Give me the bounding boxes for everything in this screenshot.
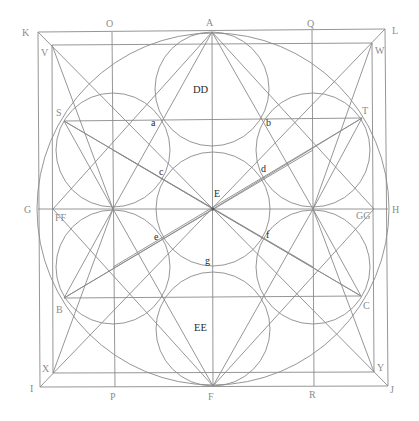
label-F: F <box>208 391 214 402</box>
label-A: A <box>206 17 214 28</box>
label-b: b <box>266 117 271 128</box>
label-d: d <box>261 163 266 174</box>
line-X-mid-left <box>53 209 113 373</box>
label-J: J <box>390 384 394 395</box>
label-DD: DD <box>193 84 209 95</box>
label-L: L <box>392 25 398 36</box>
label-GG: GG <box>356 210 370 221</box>
label-a: a <box>151 117 156 128</box>
line-S-left-mid <box>64 121 113 209</box>
geometric-construction-diagram: K O A Q L V W S T G FF GG H B C X Y I P … <box>0 0 419 421</box>
label-EE: EE <box>194 322 207 333</box>
label-B: B <box>56 304 63 315</box>
label-C: C <box>363 300 370 311</box>
label-e: e <box>154 231 159 242</box>
line-T-right-mid <box>313 118 362 209</box>
line-F-GG <box>213 209 374 386</box>
label-g: g <box>205 255 210 266</box>
label-X: X <box>42 363 50 374</box>
label-P: P <box>110 391 116 402</box>
label-c: c <box>159 166 164 177</box>
label-H: H <box>392 204 399 215</box>
label-I: I <box>30 383 33 394</box>
label-O: O <box>106 18 113 29</box>
line-A-GG <box>212 32 374 209</box>
line-A-lower-right-center <box>212 32 313 209</box>
label-Y: Y <box>377 362 384 373</box>
line-B-left-mid <box>64 209 113 298</box>
line-C-right-mid <box>313 209 361 296</box>
label-W: W <box>375 45 385 56</box>
label-E: E <box>214 188 220 199</box>
horizontal-S-T <box>64 118 362 121</box>
label-Q: Q <box>307 18 315 29</box>
label-V: V <box>41 47 49 58</box>
label-R: R <box>309 389 316 400</box>
label-S: S <box>56 107 62 118</box>
line-W-mid-right <box>313 43 372 209</box>
label-FF: FF <box>55 212 67 223</box>
label-G: G <box>24 204 31 215</box>
center-point-E <box>211 207 214 210</box>
label-T: T <box>362 105 368 116</box>
label-K: K <box>22 27 30 38</box>
